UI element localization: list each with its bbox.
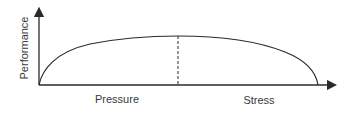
y-axis-label: Performance (18, 17, 30, 80)
x-label-pressure: Pressure (95, 93, 139, 105)
x-label-stress: Stress (243, 94, 275, 106)
performance-curve-diagram: Performance Pressure Stress (0, 0, 355, 113)
